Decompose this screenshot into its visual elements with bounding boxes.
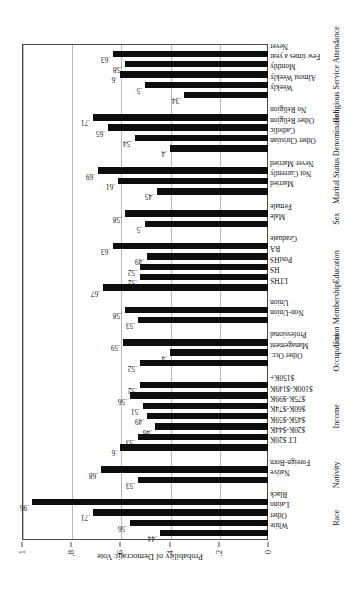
bar bbox=[130, 520, 268, 526]
group-labels-container: RaceNativityIncomeOccupationUnion Member… bbox=[330, 44, 358, 540]
bar bbox=[113, 51, 268, 57]
bar-group: .53 bbox=[22, 477, 268, 483]
bar-value-label: .52 bbox=[128, 386, 137, 394]
rotated-figure-container: 0.2.4.6.81 Probability of Democratic Vot… bbox=[0, 0, 359, 602]
bar-value-label: .67 bbox=[91, 289, 100, 297]
category-label: Never bbox=[270, 42, 288, 51]
bar-value-label: .53 bbox=[126, 481, 135, 489]
y-tick-mark bbox=[169, 542, 170, 547]
bar-value-label: .4 bbox=[161, 149, 166, 157]
bar bbox=[145, 82, 268, 88]
category-label: Few times a year bbox=[270, 52, 320, 61]
bar bbox=[125, 210, 268, 216]
group-label: Marital Status bbox=[332, 158, 341, 204]
bar bbox=[138, 317, 268, 323]
bar-group: .4 bbox=[22, 349, 268, 355]
bar-value-label: .52 bbox=[128, 268, 137, 276]
bar-value-label: .6 bbox=[112, 448, 117, 456]
bar bbox=[145, 221, 268, 227]
bar-group: .71 bbox=[22, 509, 268, 515]
group-label: Income bbox=[332, 404, 341, 429]
y-axis-title: Probability of Democratic Vote bbox=[27, 552, 273, 562]
category-label: Other Religion bbox=[270, 116, 314, 125]
y-tick-mark bbox=[22, 542, 23, 547]
bar-group: .58 bbox=[22, 210, 268, 216]
bar bbox=[140, 274, 268, 280]
bar bbox=[130, 392, 268, 398]
category-label: $45K-$59K bbox=[270, 415, 305, 424]
y-tick-mark bbox=[71, 542, 72, 547]
y-tick-label: 1 bbox=[17, 550, 27, 554]
category-label: Union bbox=[270, 298, 288, 307]
category-label: Other Christian bbox=[270, 136, 316, 145]
bar bbox=[93, 509, 268, 515]
category-label: Latino bbox=[270, 501, 289, 510]
group-label: Nativity bbox=[332, 461, 341, 488]
category-label: No Religion bbox=[270, 105, 306, 114]
category-label: Catholic bbox=[270, 126, 295, 135]
bar-group: .46 bbox=[22, 423, 268, 429]
bar-group: .44 bbox=[22, 530, 268, 536]
bar-value-label: .5 bbox=[137, 86, 142, 94]
bar-value-label: .71 bbox=[81, 514, 90, 522]
bar bbox=[157, 188, 268, 194]
bar-value-label: .58 bbox=[113, 311, 122, 319]
y-tick-mark bbox=[268, 542, 269, 547]
bar-value-label: .53 bbox=[126, 438, 135, 446]
bar-group: .63 bbox=[22, 51, 268, 57]
bar-group: .54 bbox=[22, 135, 268, 141]
group-label: Union Membership bbox=[332, 283, 341, 347]
bar-value-label: .44 bbox=[148, 534, 157, 542]
group-label: Religious Service Attendance bbox=[332, 26, 341, 123]
category-label: White bbox=[270, 521, 288, 530]
group-label: Education bbox=[332, 250, 341, 283]
category-label: Foreign-Born bbox=[270, 458, 310, 467]
category-label: HS bbox=[270, 265, 279, 274]
category-label: BA bbox=[270, 244, 280, 253]
bar-group: .52 bbox=[22, 264, 268, 270]
bar-group: .68 bbox=[22, 466, 268, 472]
category-label: Native bbox=[270, 468, 290, 477]
bar-group: .58 bbox=[22, 307, 268, 313]
bar-group: .69 bbox=[22, 167, 268, 173]
bar-group: .71 bbox=[22, 114, 268, 120]
group-label: Race bbox=[332, 509, 341, 525]
category-label: Almost Weekly bbox=[270, 73, 316, 82]
bar bbox=[140, 382, 268, 388]
bar-value-label: .59 bbox=[111, 343, 120, 351]
bar-value-label: .52 bbox=[128, 364, 137, 372]
y-tick-mark bbox=[120, 542, 121, 547]
bar-value-label: .71 bbox=[81, 118, 90, 126]
category-label: $20K-$44K bbox=[270, 425, 305, 434]
bar-value-label: .65 bbox=[96, 129, 105, 137]
category-label: Never Married bbox=[270, 159, 314, 168]
bar-group: .96 bbox=[22, 499, 268, 505]
bar-group: .52 bbox=[22, 360, 268, 366]
bar bbox=[120, 71, 268, 77]
bar bbox=[93, 114, 268, 120]
bar-value-label: .63 bbox=[101, 247, 110, 255]
bars-container: .44.56.71.96.53.68.6.53.46.49.51.56.52.5… bbox=[22, 44, 268, 540]
bar-value-label: .49 bbox=[135, 417, 144, 425]
bar bbox=[135, 135, 268, 141]
bar-value-label: .49 bbox=[135, 257, 144, 265]
bar bbox=[170, 349, 268, 355]
category-label: Monthly bbox=[270, 62, 295, 71]
bar-group: .67 bbox=[22, 284, 268, 290]
bar-value-label: .56 bbox=[118, 397, 127, 405]
bar-value-label: .68 bbox=[89, 471, 98, 479]
category-label: Non-Union bbox=[270, 308, 304, 317]
bar bbox=[101, 466, 268, 472]
bar-value-label: .61 bbox=[106, 182, 115, 190]
bar bbox=[138, 477, 268, 483]
bar-group: .6 bbox=[22, 444, 268, 450]
category-label: Married bbox=[270, 179, 294, 188]
bar bbox=[120, 444, 268, 450]
category-label: LTHS bbox=[270, 276, 288, 285]
bar-group: .65 bbox=[22, 124, 268, 130]
bar bbox=[138, 434, 268, 440]
bar-group: .52 bbox=[22, 274, 268, 280]
bar bbox=[32, 499, 268, 505]
category-label: Not Currently bbox=[270, 169, 311, 178]
bar bbox=[113, 243, 268, 249]
